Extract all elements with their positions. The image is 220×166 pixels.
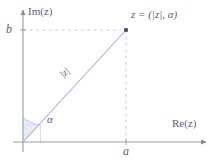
point-marker-z <box>124 28 128 32</box>
angle-wedge <box>23 117 40 142</box>
real-axis-label: Re(z) <box>172 118 196 129</box>
imaginary-part-label-b: b <box>6 23 12 35</box>
real-part-label-a: a <box>123 145 129 157</box>
complex-plane-diagram: Im(z) Re(z) b a α |z| z = (|z|, α) <box>0 0 220 166</box>
modulus-segment <box>23 30 126 142</box>
angle-label-alpha: α <box>47 114 53 125</box>
diagram-canvas <box>0 0 220 166</box>
imaginary-axis-label: Im(z) <box>28 6 52 17</box>
point-label-z: z = (|z|, α) <box>131 9 177 20</box>
